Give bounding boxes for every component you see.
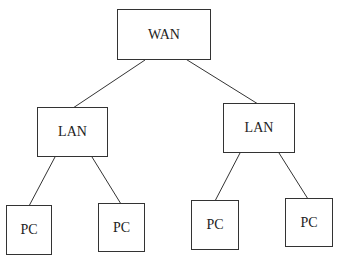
node-lan-right-label: LAN (245, 120, 274, 136)
node-pc-1-label: PC (20, 222, 37, 238)
node-lan-left-label: LAN (58, 124, 87, 140)
edge-lan1-pc1 (29, 157, 55, 206)
edge-wan-lan2 (184, 58, 258, 104)
node-pc-3-label: PC (206, 217, 223, 233)
node-pc-4: PC (285, 198, 333, 247)
edge-lan2-pc3 (215, 153, 240, 201)
edge-lan1-pc2 (92, 157, 121, 204)
edge-lan2-pc4 (279, 153, 308, 199)
edge-wan-lan1 (73, 60, 145, 108)
node-pc-2: PC (98, 203, 145, 252)
node-pc-3: PC (191, 200, 239, 250)
node-wan-label: WAN (148, 27, 180, 43)
node-pc-1: PC (6, 205, 52, 255)
node-pc-2-label: PC (113, 220, 130, 236)
node-pc-4-label: PC (300, 215, 317, 231)
node-lan-left: LAN (37, 107, 108, 157)
node-wan: WAN (117, 9, 211, 60)
node-lan-right: LAN (223, 103, 295, 153)
